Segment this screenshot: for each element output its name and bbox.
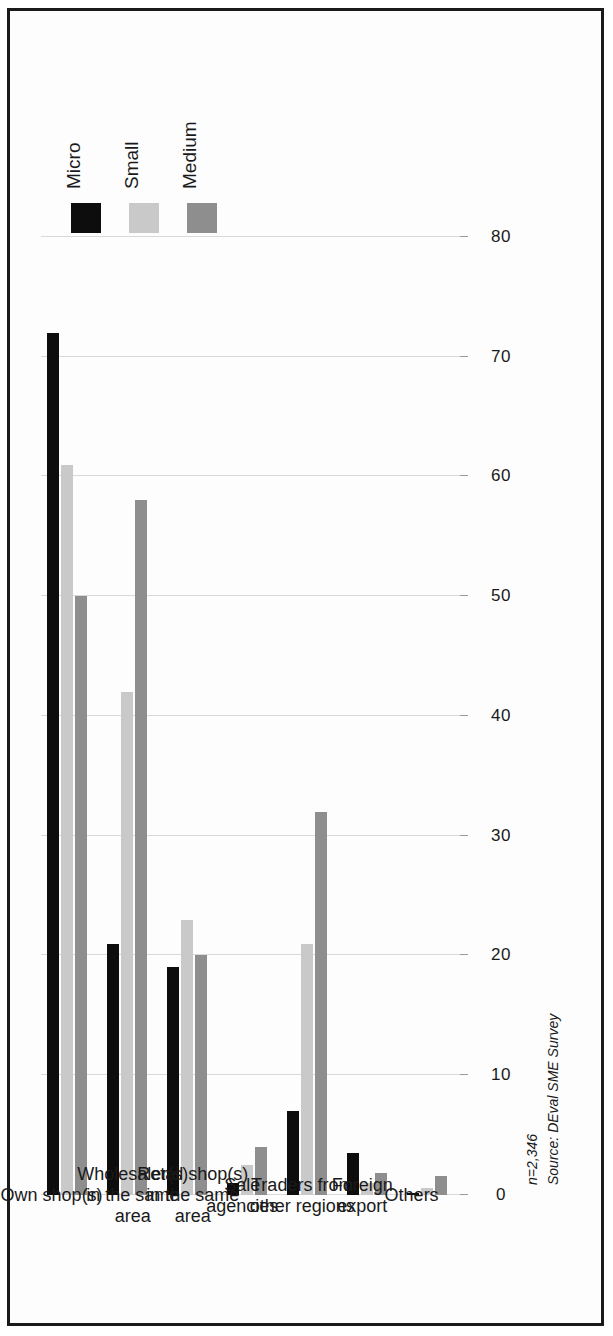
value-tick-label: 30 [481, 826, 521, 846]
bar-small [301, 944, 313, 1195]
gridline [41, 476, 461, 477]
axis-tick [460, 236, 468, 237]
gridline [41, 356, 461, 357]
legend-label: Medium [179, 121, 201, 189]
source-text: Source: DEval SME Survey [542, 1014, 562, 1185]
bar-chart: 01020304050607080 Own shop(s)Wholesaler(… [27, 23, 587, 1313]
axis-tick [460, 356, 468, 357]
chart-footnote: n=2,346 Source: DEval SME Survey [522, 1014, 563, 1185]
bar-micro [107, 944, 119, 1195]
legend-swatch [71, 203, 101, 233]
axis-tick [460, 595, 468, 596]
gridline [41, 955, 461, 956]
bar-small [121, 692, 133, 1195]
legend-item: Small [115, 83, 173, 233]
bar-medium [195, 956, 207, 1196]
category-label-line: Others [316, 1185, 506, 1206]
gridline [41, 236, 461, 237]
scanned-page: 01020304050607080 Own shop(s)Wholesaler(… [0, 0, 613, 1336]
value-tick-label: 80 [481, 227, 521, 247]
rotated-chart-wrapper: 01020304050607080 Own shop(s)Wholesaler(… [0, 0, 613, 1336]
gridline [41, 595, 461, 596]
legend-swatch [129, 203, 159, 233]
legend-item: Medium [173, 83, 231, 233]
axis-tick [460, 1074, 468, 1075]
value-tick-label: 20 [481, 946, 521, 966]
value-tick-label: 60 [481, 467, 521, 487]
value-tick-label: 50 [481, 586, 521, 606]
bar-micro [47, 333, 59, 1195]
plot-area [41, 237, 461, 1195]
bar-medium [315, 812, 327, 1195]
legend-item: Micro [57, 83, 115, 233]
category-label: Others [316, 1185, 506, 1206]
value-tick-label: 40 [481, 706, 521, 726]
bar-small [61, 465, 73, 1195]
legend-label: Micro [63, 143, 85, 189]
bar-medium [135, 500, 147, 1195]
legend-swatch [187, 203, 217, 233]
legend-label: Small [121, 141, 143, 189]
bar-medium [75, 596, 87, 1195]
sample-size-text: n=2,346 [522, 1014, 542, 1185]
gridline [41, 715, 461, 716]
bar-small [181, 920, 193, 1195]
chart-legend: MicroSmallMedium [57, 83, 231, 233]
axis-tick [460, 476, 468, 477]
gridline [41, 835, 461, 836]
value-tick-label: 70 [481, 347, 521, 367]
gridline [41, 1074, 461, 1075]
axis-tick [460, 955, 468, 956]
value-tick-label: 10 [481, 1065, 521, 1085]
axis-tick [460, 835, 468, 836]
bar-micro [167, 967, 179, 1195]
axis-tick [460, 715, 468, 716]
